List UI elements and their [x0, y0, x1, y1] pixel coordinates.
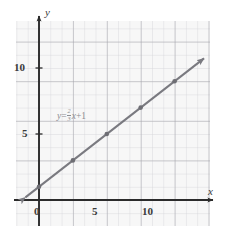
equation-constant: 1	[81, 111, 86, 121]
data-point	[37, 185, 42, 190]
y-tick-label-10: 10	[14, 62, 25, 73]
x-tick-label-5: 5	[92, 206, 98, 217]
data-point	[105, 132, 110, 137]
coordinate-plane-figure: 0 5 10 10 5 y x y=23x+1	[0, 0, 229, 237]
data-point	[138, 105, 143, 110]
equation-equals: =	[61, 111, 66, 121]
plot-svg	[0, 0, 229, 237]
x-tick-label-0: 0	[34, 206, 40, 217]
x-axis-label: x	[208, 186, 213, 197]
equation-fraction: 23	[67, 108, 71, 122]
data-point	[71, 158, 76, 163]
data-point	[172, 79, 177, 84]
equation-denominator: 3	[67, 116, 71, 123]
equation-annotation: y=23x+1	[57, 108, 86, 122]
y-axis-label: y	[45, 7, 50, 18]
y-tick-label-5: 5	[22, 128, 28, 139]
x-tick-label-10: 10	[142, 206, 153, 217]
grid-layer	[16, 21, 210, 226]
